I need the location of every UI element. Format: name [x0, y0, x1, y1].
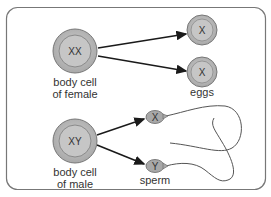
female-cell-label: XX — [68, 46, 82, 57]
female-caption-line2: of female — [45, 88, 105, 100]
arrow-to-egg-2 — [98, 56, 186, 71]
sperm-x-label: X — [152, 112, 159, 123]
egg-1-label: X — [199, 25, 206, 36]
male-caption: body cell of male — [45, 166, 105, 190]
sperm-caption: sperm — [135, 174, 175, 186]
egg-2-label: X — [199, 67, 206, 78]
female-caption: body cell of female — [45, 76, 105, 100]
arrow-to-sperm-x — [97, 119, 144, 135]
male-caption-line1: body cell — [45, 166, 105, 178]
egg-cell-1: X — [187, 15, 217, 45]
arrow-to-sperm-y — [97, 145, 144, 164]
sperm-y: Y — [146, 118, 234, 181]
female-body-cell: XX — [53, 29, 97, 73]
sperm-x: X — [146, 106, 241, 151]
female-caption-line1: body cell — [45, 76, 105, 88]
eggs-caption: eggs — [182, 86, 222, 98]
diagram-canvas: XX X X XY X Y — [0, 0, 271, 197]
arrow-to-egg-1 — [98, 34, 186, 48]
male-body-cell: XY — [53, 119, 97, 163]
male-caption-line2: of male — [45, 178, 105, 190]
sperm-y-label: Y — [152, 161, 159, 172]
male-cell-label: XY — [68, 136, 82, 147]
egg-cell-2: X — [187, 57, 217, 87]
